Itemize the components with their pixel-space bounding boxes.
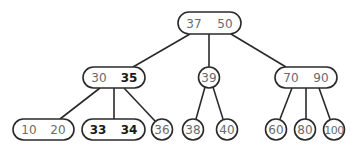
tree-node-n39: 39 [199, 67, 220, 88]
tree-node-n33_34: 3334 [82, 119, 145, 140]
tree-node-n38: 38 [183, 119, 204, 140]
node-key: 35 [121, 71, 138, 85]
tree-node-n10_20: 1020 [13, 119, 74, 140]
node-key: 37 [186, 17, 201, 31]
edge-n39-to-n40 [213, 87, 223, 119]
node-key: 34 [121, 123, 138, 137]
node-key: 90 [313, 71, 328, 85]
edge-root-to-n70_90 [231, 34, 286, 67]
node-key: 50 [217, 17, 232, 31]
edge-n39-to-n38 [196, 87, 205, 119]
tree-nodes: 37503035397090102033343638406080100 [13, 12, 345, 140]
node-key: 20 [50, 123, 65, 137]
node-key: 36 [154, 123, 169, 137]
node-key: 10 [21, 123, 36, 137]
edge-n70_90-to-n60 [280, 88, 292, 119]
edge-n30_35-to-n36 [124, 88, 155, 121]
node-key: 38 [185, 123, 200, 137]
edge-n70_90-to-n100 [319, 88, 330, 119]
edge-n30_35-to-n10_20 [60, 88, 100, 119]
tree-node-n70_90: 7090 [275, 67, 337, 88]
tree-diagram: 37503035397090102033343638406080100 [0, 0, 364, 152]
node-key: 70 [283, 71, 298, 85]
node-key: 100 [324, 124, 344, 137]
node-key: 60 [268, 123, 283, 137]
node-key: 33 [90, 123, 107, 137]
tree-node-n30_35: 3035 [83, 67, 145, 88]
edge-root-to-n30_35 [133, 34, 190, 67]
tree-node-root: 3750 [178, 12, 241, 34]
tree-node-n36: 36 [152, 119, 173, 140]
node-key: 80 [297, 123, 312, 137]
tree-node-n80: 80 [295, 119, 316, 140]
tree-node-n100: 100 [324, 119, 345, 140]
node-key: 39 [201, 71, 216, 85]
tree-node-n40: 40 [217, 119, 238, 140]
node-key: 30 [91, 71, 106, 85]
node-key: 40 [219, 123, 234, 137]
tree-node-n60: 60 [266, 119, 287, 140]
